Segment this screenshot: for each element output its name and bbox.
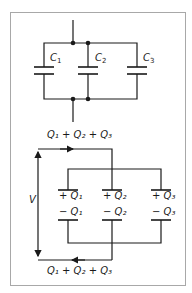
total-charge-label-bottom: Q₁ + Q₂ + Q₃ — [47, 265, 112, 276]
minus-charge-label: − Q₂ — [103, 206, 126, 217]
parallel-capacitor-diagram: C1 C2 C3 Q₁ + Q₂ + Q₃ V — [0, 0, 192, 293]
bottom-bus-wire — [44, 74, 137, 99]
voltage-label: V — [29, 194, 37, 205]
junction-dot — [71, 97, 76, 102]
bottom-circuit: V + Q₁ − Q₁ + Q₂ − Q₂ + Q₃ − Q₃ — [29, 149, 175, 260]
svg-text:C3: C3 — [143, 52, 154, 65]
inner-bottom-wire — [68, 220, 161, 243]
capacitor-c2: C2 — [78, 52, 106, 74]
svg-text:C2: C2 — [95, 52, 106, 65]
junction-dot — [86, 41, 91, 46]
junction-dot — [71, 41, 76, 46]
junction-dot — [86, 97, 91, 102]
top-circuit: C1 C2 C3 — [34, 20, 154, 122]
capacitor-c3: C3 — [127, 52, 154, 74]
capacitor-1-plates: + Q₁ − Q₁ — [58, 190, 82, 220]
inner-top-wire — [68, 169, 161, 190]
plus-charge-label: + Q₂ — [103, 190, 126, 201]
minus-charge-label: − Q₃ — [152, 206, 175, 217]
capacitor-2-plates: + Q₂ − Q₂ — [102, 190, 126, 220]
minus-charge-label: − Q₁ — [59, 206, 82, 217]
capacitor-c1: C1 — [34, 52, 61, 74]
outer-top-wire — [38, 149, 112, 169]
plus-charge-label: + Q₁ — [59, 190, 82, 201]
capacitor-3-plates: + Q₃ − Q₃ — [151, 190, 175, 220]
svg-text:C1: C1 — [50, 52, 61, 65]
plus-charge-label: + Q₃ — [152, 190, 175, 201]
total-charge-label-top: Q₁ + Q₂ + Q₃ — [47, 129, 112, 140]
